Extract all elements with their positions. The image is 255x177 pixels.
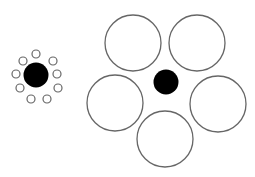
surround-circle [49, 57, 57, 65]
ebbinghaus-figure [0, 0, 255, 177]
center-disc [154, 70, 179, 95]
surround-circle [32, 50, 40, 58]
center-disc [24, 63, 49, 88]
surround-circle [105, 15, 161, 71]
surround-circle [53, 70, 61, 78]
surround-circle [43, 95, 51, 103]
surround-circle [87, 75, 143, 131]
right-group-large-surround [87, 15, 246, 167]
surround-circle [16, 84, 24, 92]
surround-circle [19, 57, 27, 65]
left-group-small-surround [12, 50, 62, 103]
surround-circle [54, 84, 62, 92]
surround-circle [190, 76, 246, 132]
surround-circle [12, 70, 20, 78]
surround-circle [27, 95, 35, 103]
surround-circle [137, 111, 193, 167]
surround-circle [169, 15, 225, 71]
